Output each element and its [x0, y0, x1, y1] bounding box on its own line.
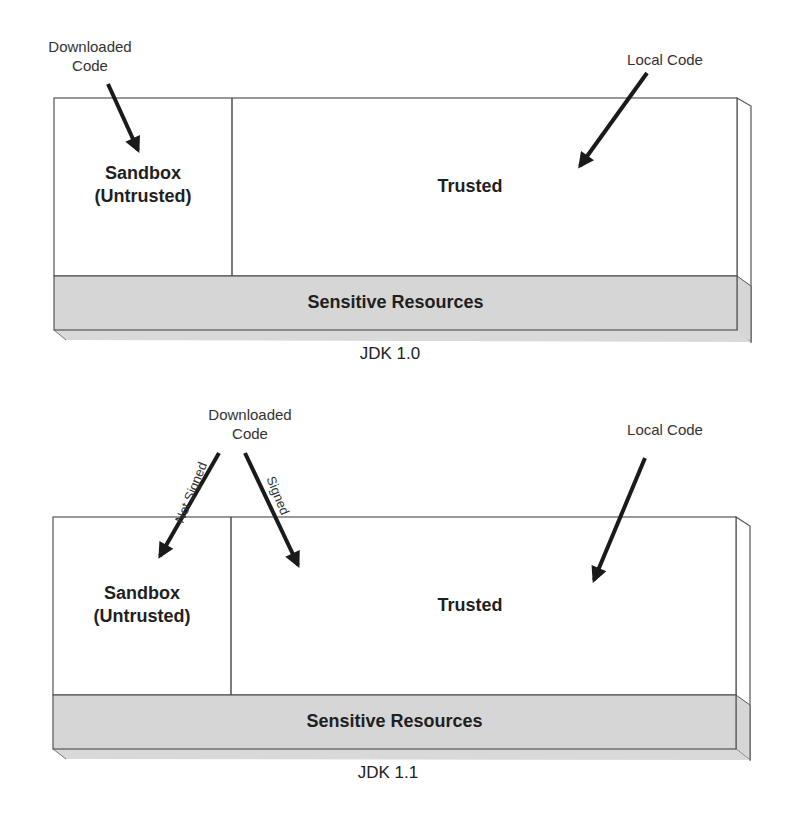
jdk10-trusted-label: Trusted	[380, 176, 560, 197]
jdk10-sandbox-label: Sandbox (Untrusted)	[54, 162, 232, 208]
jdk10-downloaded-line2: Code	[20, 56, 160, 75]
diagram-canvas	[0, 0, 786, 816]
jdk11-box-side-resources	[736, 695, 750, 760]
jdk10-local-code-label: Local Code	[590, 50, 740, 69]
jdk11-local-code-label: Local Code	[590, 420, 740, 439]
jdk11-downloaded-line1: Downloaded	[180, 405, 320, 424]
jdk10-resources-label: Sensitive Resources	[54, 292, 737, 313]
jdk10-downloaded-line1: Downloaded	[20, 37, 160, 56]
jdk10-sandbox-line1: Sandbox	[54, 162, 232, 185]
jdk11-box-bottom	[53, 749, 750, 760]
jdk10-sandbox-line2: (Untrusted)	[54, 185, 232, 208]
jdk11-caption: JDK 1.1	[298, 763, 478, 783]
jdk11-sandbox-line1: Sandbox	[53, 582, 231, 605]
jdk11-downloaded-line2: Code	[180, 424, 320, 443]
jdk11-resources-label: Sensitive Resources	[53, 711, 736, 732]
jdk11-downloaded-code-label: Downloaded Code	[180, 405, 320, 443]
jdk11-trusted-label: Trusted	[380, 595, 560, 616]
jdk11-sandbox-label: Sandbox (Untrusted)	[53, 582, 231, 628]
jdk10-box-bottom	[54, 330, 751, 342]
jdk10-caption: JDK 1.0	[300, 344, 480, 364]
jdk10-downloaded-code-label: Downloaded Code	[20, 37, 160, 75]
jdk11-sandbox-line2: (Untrusted)	[53, 605, 231, 628]
